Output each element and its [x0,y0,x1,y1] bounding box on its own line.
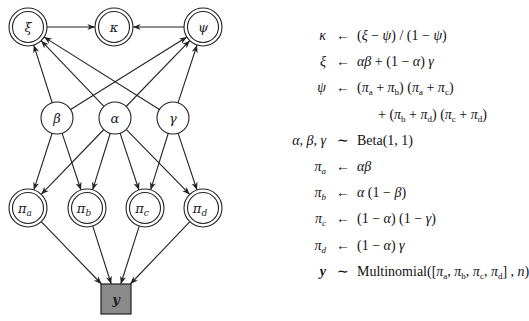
equation-lhs: ψ [317,77,326,99]
equation-lhs: πc [315,208,326,234]
equation-rhs: Beta(1, 1) [357,130,413,152]
equation-operator: ← [331,208,355,230]
equation-operator: ← [331,77,355,99]
equation-row: ψ←(πa + πb) (πa + πc) [0,77,516,99]
equation-operator: ← [331,51,355,73]
equation-operator: ← [331,182,355,204]
equation-row: πc←(1 − α) (1 − γ) [0,208,516,230]
equation-row: κ←(ξ − ψ) / (1 − ψ) [0,25,516,47]
equation-row: πb←α (1 − β) [0,182,516,204]
equation-operator: ← [331,25,355,47]
equation-lhs: πa [314,156,326,182]
equation-row: ξ←αβ + (1 − α) γ [0,51,516,73]
equation-rhs: αβ + (1 − α) γ [357,51,434,73]
equation-row: πa←αβ [0,156,516,178]
equation-rhs: (1 − α) (1 − γ) [357,208,436,230]
equation-rhs: (πa + πb) (πa + πc) [357,77,454,103]
equation-rhs: (ξ − ψ) / (1 − ψ) [357,25,447,47]
equation-lhs: ξ [320,51,326,73]
equation-rhs: αβ [357,156,371,178]
equation-rhs: Multinomial([πa, πb, πc, πd] , n) [357,261,529,287]
equation-lhs: πb [314,182,326,208]
equation-rhs: (1 − α) γ [357,235,405,257]
equation-lhs: πd [314,235,326,261]
equation-row: πd←(1 − α) γ [0,235,516,257]
equation-lhs: α, β, γ [292,130,326,152]
equation-rhs: α (1 − β) [357,182,406,204]
equation-row: y∼Multinomial([πa, πb, πc, πd] , n) [0,261,516,283]
equation-lhs: κ [319,25,326,47]
equation-lhs: y [320,261,326,283]
equation-operator: ∼ [331,261,355,283]
equation-row: + (πb + πd) (πc + πd) [0,104,516,126]
equation-row: α, β, γ∼Beta(1, 1) [0,130,516,152]
equation-operator: ∼ [331,130,355,152]
equation-rhs: + (πb + πd) (πc + πd) [378,104,487,130]
equation-operator: ← [331,235,355,257]
equation-operator: ← [331,156,355,178]
